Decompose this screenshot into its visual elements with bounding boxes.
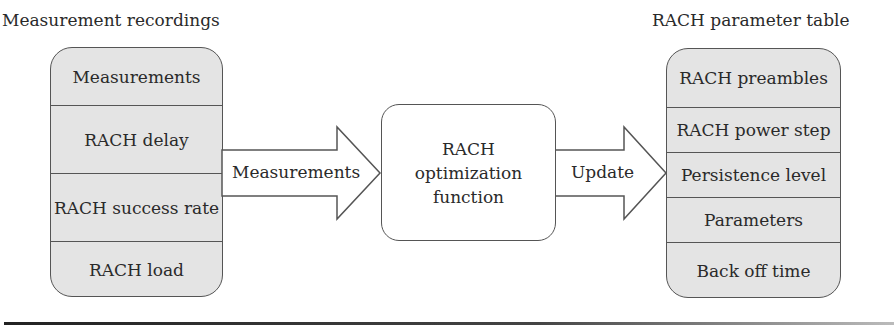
bottom-rule-divider	[4, 322, 894, 325]
param-item-parameters: Parameters	[667, 197, 840, 242]
rach-parameter-table-stack: RACH preambles RACH power step Persisten…	[666, 48, 841, 298]
function-line-2: optimization	[415, 161, 523, 185]
param-item-back-off-time: Back off time	[667, 242, 840, 298]
measurements-arrow-label: Measurements	[232, 162, 360, 182]
rach-optimization-function-box: RACH optimization function	[381, 104, 556, 241]
function-line-1: RACH	[442, 137, 495, 161]
update-arrow-label: Update	[571, 162, 634, 182]
param-item-persistence-level: Persistence level	[667, 152, 840, 197]
rach-parameter-table-title: RACH parameter table	[652, 10, 850, 30]
function-line-3: function	[433, 185, 504, 209]
param-item-rach-preambles: RACH preambles	[667, 49, 840, 107]
param-item-rach-power-step: RACH power step	[667, 107, 840, 152]
